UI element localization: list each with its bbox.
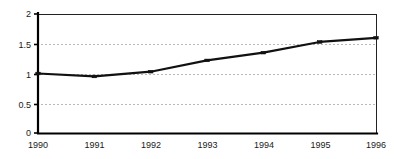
x-tick-label-1993: 1993 xyxy=(197,140,217,150)
x-tick-label-1994: 1994 xyxy=(254,140,274,150)
x-tick-label-1992: 1992 xyxy=(141,140,161,150)
plot-area-background xyxy=(37,14,377,133)
y-axis-labels: 2 1.5 1 0.5 0 xyxy=(18,9,31,138)
y-tick-label-0: 0 xyxy=(26,128,31,138)
y-tick-label-2: 2 xyxy=(26,9,31,19)
y-tick-label-1: 1 xyxy=(26,70,31,80)
x-tick-label-1990: 1990 xyxy=(28,140,48,150)
chart-canvas: 2 1.5 1 0.5 0 1990 1991 1992 1993 1994 1… xyxy=(0,0,394,159)
x-tick-label-1995: 1995 xyxy=(310,140,330,150)
x-tick-label-1996: 1996 xyxy=(366,140,386,150)
data-point xyxy=(374,37,379,40)
x-tick-label-1991: 1991 xyxy=(84,140,104,150)
data-point xyxy=(317,41,322,44)
data-point xyxy=(148,70,153,73)
data-point xyxy=(205,59,210,62)
x-axis-labels: 1990 1991 1992 1993 1994 1995 1996 xyxy=(28,140,386,150)
line-chart: 2 1.5 1 0.5 0 1990 1991 1992 1993 1994 1… xyxy=(0,0,394,159)
data-point xyxy=(261,51,266,54)
data-point xyxy=(36,72,41,75)
y-tick-label-1-5: 1.5 xyxy=(18,40,31,50)
data-point xyxy=(92,75,97,78)
y-tick-label-0-5: 0.5 xyxy=(18,100,31,110)
